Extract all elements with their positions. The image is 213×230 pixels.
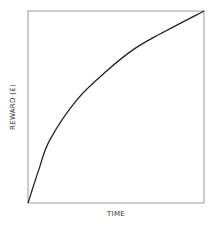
x-axis-label: TIME [106, 210, 125, 218]
reward-curve [28, 11, 204, 203]
plot-frame [28, 11, 204, 203]
y-axis-label: REWARD (£) [9, 84, 17, 130]
reward-time-chart: TIME REWARD (£) [0, 0, 213, 230]
